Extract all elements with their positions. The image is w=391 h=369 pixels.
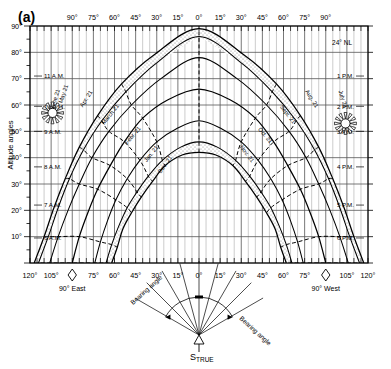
latitude-label: 24° NL xyxy=(332,39,352,46)
x-tick-label-bottom: 15° xyxy=(215,271,226,280)
x-tick-label-bottom: 45° xyxy=(257,271,268,280)
hour-label-left: 8 A.M. xyxy=(44,163,62,170)
x-tick-label-top: 60° xyxy=(278,13,289,22)
y-tick-label: 90° xyxy=(11,22,22,31)
hour-label-left: 9 A.M. xyxy=(44,128,62,135)
x-tick-label-top: 30° xyxy=(151,13,162,22)
x-tick-label-bottom: 105° xyxy=(44,271,59,280)
x-tick-label-top: 30° xyxy=(236,13,247,22)
x-tick-label-bottom: 45° xyxy=(130,271,141,280)
y-tick-label: 50° xyxy=(11,127,22,136)
x-tick-label-top: 15° xyxy=(215,13,226,22)
hour-label-left: 11 A.M. xyxy=(44,72,65,79)
x-tick-label-top: 15° xyxy=(172,13,183,22)
hour-label-left: 7 A.M. xyxy=(44,201,62,208)
x-tick-label-bottom: 75° xyxy=(88,271,99,280)
x-tick-label-top: 45° xyxy=(257,13,268,22)
x-tick-label-top: 0° xyxy=(196,13,203,22)
sun-path-figure: (a) Altitude angles 10°20°30°40°50°60°70… xyxy=(0,0,391,369)
y-tick-label: 10° xyxy=(11,232,22,241)
x-tick-label-top: 90° xyxy=(67,13,78,22)
x-tick-label-top: 75° xyxy=(88,13,99,22)
y-tick-label: 30° xyxy=(11,180,22,189)
hour-label-left: 6 A.M. xyxy=(44,234,62,241)
east-marker-label: 90° East xyxy=(59,285,86,292)
x-tick-label-top: 45° xyxy=(130,13,141,22)
hour-label-right: 6 P.M. xyxy=(337,234,354,241)
y-tick-label: 40° xyxy=(11,153,22,162)
south-true-sub: TRUE xyxy=(196,356,214,363)
y-tick-label: 70° xyxy=(11,74,22,83)
x-tick-label-bottom: 120° xyxy=(23,271,38,280)
y-tick-label: 60° xyxy=(11,101,22,110)
x-tick-label-bottom: 30° xyxy=(236,271,247,280)
hour-label-right: 1 P.M. xyxy=(337,72,354,79)
x-tick-label-bottom: 15° xyxy=(172,271,183,280)
x-tick-label-bottom: 120° xyxy=(361,271,376,280)
west-marker-label: 90° West xyxy=(312,285,340,292)
zero-bearing-marker xyxy=(195,296,203,299)
x-tick-label-top: 90° xyxy=(320,13,331,22)
hour-label-right: 5 P.M. xyxy=(337,201,354,208)
x-tick-label-bottom: 75° xyxy=(299,271,310,280)
x-tick-label-top: 60° xyxy=(109,13,120,22)
sun-path-chart: (a) Altitude angles 10°20°30°40°50°60°70… xyxy=(0,0,391,369)
x-tick-label-top: 75° xyxy=(299,13,310,22)
hour-label-right: 4 P.M. xyxy=(337,163,354,170)
x-tick-label-bottom: 60° xyxy=(278,271,289,280)
hour-label-right: 2 P.M. xyxy=(337,103,354,110)
y-tick-label: 80° xyxy=(11,48,22,57)
x-tick-label-bottom: 60° xyxy=(109,271,120,280)
x-tick-label-bottom: 105° xyxy=(339,271,354,280)
y-tick-label: 20° xyxy=(11,206,22,215)
